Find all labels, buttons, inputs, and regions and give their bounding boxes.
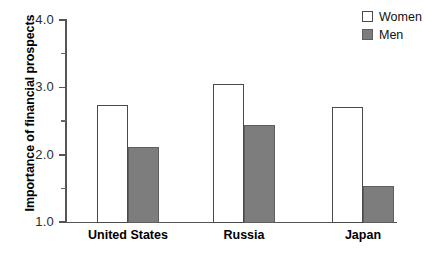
bar-japan-women [332,107,363,224]
y-tick-label-1.0: 1.0 [35,214,54,229]
y-tick-label-3.0: 3.0 [35,79,54,94]
bar-russia-men [244,125,275,223]
bar-united-states-men [128,147,159,224]
y-tick-minor-3.5 [61,53,67,55]
bar-japan-men [363,186,394,223]
y-tick-4.0 [59,19,66,21]
y-tick-label-2.0: 2.0 [35,147,54,162]
y-tick-minor-1.5 [61,188,67,190]
y-tick-minor-2.5 [61,120,67,122]
legend: Women Men [362,8,438,44]
y-tick-label-4.0: 4.0 [35,12,54,27]
y-tick-1.0 [59,221,66,223]
x-category-label-united-states: United States [68,228,188,242]
legend-label-men: Men [379,28,403,42]
bar-chart: Importance of financial prospects 4.0 3.… [0,0,440,261]
y-axis-title: Importance of financial prospects [23,6,37,221]
legend-label-women: Women [379,10,422,24]
legend-swatch-men-icon [362,29,373,40]
bar-united-states-women [97,105,128,224]
legend-swatch-women-icon [362,11,373,22]
y-tick-2.0 [59,154,66,156]
x-category-label-russia: Russia [184,228,304,242]
legend-item-women: Women [362,8,438,25]
bar-russia-women [213,84,244,223]
y-tick-3.0 [59,87,66,89]
x-category-label-japan: Japan [303,228,423,242]
legend-item-men: Men [362,26,438,43]
